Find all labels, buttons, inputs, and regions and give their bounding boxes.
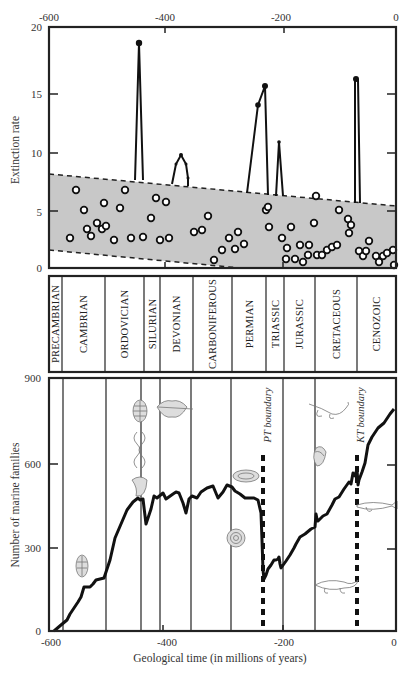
top-y-tick-label: 0 bbox=[37, 262, 43, 274]
figure-root: -600 -400 -200 0 20 15 10 5 0 Extinction… bbox=[0, 0, 408, 674]
mass-extinction-peaks bbox=[135, 43, 360, 203]
top-x-tick-label: -400 bbox=[155, 11, 176, 23]
kt-boundary-label: KT boundary bbox=[355, 387, 366, 444]
marine-families-chart: 900 600 300 0 Number of marine families … bbox=[9, 372, 397, 665]
horn-coral-icon bbox=[132, 477, 147, 496]
period-label-triassic: TRIASSIC bbox=[270, 300, 281, 348]
top-y-tick-label: 20 bbox=[31, 21, 43, 33]
period-label-cambrian: CAMBRIAN bbox=[78, 295, 89, 353]
trilobite-icon bbox=[133, 400, 147, 422]
pt-boundary-label: PT boundary bbox=[262, 387, 273, 443]
period-label-cenozoic: CENOZOIC bbox=[371, 297, 382, 352]
ichthyosaur-icon bbox=[357, 501, 397, 511]
trilobite-2-icon bbox=[76, 555, 88, 577]
triassic-peak bbox=[276, 142, 283, 196]
devonian-peak bbox=[172, 155, 188, 186]
marine-reptile-icon bbox=[315, 580, 358, 593]
geological-periods-band: PRECAMBRIAN CAMBRIAN ORDOVICIAN SILURIAN… bbox=[49, 276, 396, 372]
bottom-y-axis-title: Number of marine families bbox=[9, 442, 21, 567]
bottom-x-tick-label: 0 bbox=[391, 636, 397, 648]
ammonite-icon bbox=[227, 529, 245, 547]
bottom-x-tick-label: -200 bbox=[274, 636, 295, 648]
period-label-precambrian: PRECAMBRIAN bbox=[50, 285, 61, 363]
bottom-x-axis-title: Geological time (in millions of years) bbox=[133, 652, 307, 665]
period-label-ordovician: ORDOVICIAN bbox=[119, 290, 130, 359]
bottom-y-tick-label: 900 bbox=[25, 372, 42, 384]
top-y-tick-label: 15 bbox=[31, 88, 43, 100]
top-x-tick-label: -600 bbox=[39, 11, 60, 23]
marine-families-line bbox=[54, 409, 394, 631]
period-label-silurian: SILURIAN bbox=[147, 298, 158, 349]
peak-markers bbox=[136, 40, 359, 180]
bottom-x-tick-label: -400 bbox=[157, 636, 178, 648]
top-x-tick-label: -200 bbox=[271, 11, 292, 23]
period-label-permian: PERMIAN bbox=[244, 299, 255, 348]
bottom-y-tick-label: 300 bbox=[25, 542, 42, 554]
period-label-cretaceous: CRETACEOUS bbox=[331, 289, 342, 359]
extinction-rate-chart: -600 -400 -200 0 20 15 10 5 0 Extinction… bbox=[9, 11, 399, 274]
ordovician-peak bbox=[135, 43, 143, 180]
graptolite-icon bbox=[134, 432, 145, 468]
period-label-jurassic: JURASSIC bbox=[294, 299, 305, 349]
period-band-frame bbox=[49, 276, 396, 372]
period-label-carboniferous: CARBONIFEROUS bbox=[207, 279, 218, 369]
bottom-x-tick-label: -600 bbox=[41, 636, 62, 648]
brachiopod-2-icon bbox=[233, 470, 259, 482]
period-label-devonian: DEVONIAN bbox=[171, 295, 182, 352]
top-y-tick-label: 5 bbox=[37, 206, 43, 218]
top-y-axis-title: Extinction rate bbox=[9, 116, 21, 184]
top-x-tick-label: 0 bbox=[393, 11, 399, 23]
cretaceous-peak bbox=[355, 80, 360, 203]
brachiopod-icon bbox=[157, 401, 193, 418]
fossil-icons bbox=[76, 400, 397, 593]
top-y-tick-label: 10 bbox=[31, 147, 43, 159]
bottom-y-tick-label: 600 bbox=[25, 458, 42, 470]
gastropod-icon bbox=[314, 447, 326, 466]
